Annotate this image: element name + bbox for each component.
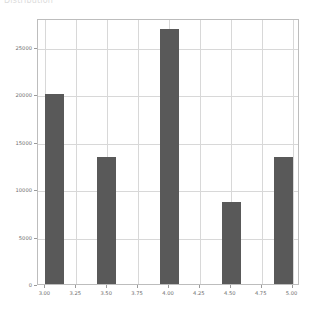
x-axis-tick-mark <box>106 285 107 288</box>
x-axis-tick-mark <box>199 285 200 288</box>
x-axis-tick-label: 3.50 <box>93 290 119 296</box>
plot-area <box>37 19 299 285</box>
gridline-vertical <box>262 20 263 284</box>
y-axis-tick-label: 5000 <box>2 235 32 241</box>
y-axis-tick-label: 15000 <box>2 140 32 146</box>
y-axis-tick-label: 10000 <box>2 187 32 193</box>
x-axis-tick-label: 4.75 <box>248 290 274 296</box>
chart-figure: Distribution 0500010000150002000025000 3… <box>0 0 310 309</box>
bar <box>97 157 116 284</box>
y-axis-tick-label: 0 <box>2 282 32 288</box>
x-axis-tick-label: 3.00 <box>31 290 57 296</box>
gridline-vertical <box>293 20 294 284</box>
x-axis-tick-mark <box>292 285 293 288</box>
figure-caption: Distribution <box>4 0 124 8</box>
gridline-vertical <box>76 20 77 284</box>
x-axis-tick-label: 4.25 <box>186 290 212 296</box>
x-axis-tick-label: 4.00 <box>155 290 181 296</box>
x-axis-tick-mark <box>168 285 169 288</box>
x-axis-tick-label: 3.25 <box>62 290 88 296</box>
gridline-vertical <box>200 20 201 284</box>
y-axis-tick-label: 25000 <box>2 45 32 51</box>
x-axis-tick-label: 5.00 <box>279 290 305 296</box>
x-axis-tick-label: 3.75 <box>124 290 150 296</box>
bar <box>160 29 179 284</box>
y-axis-tick-mark <box>34 285 37 286</box>
x-axis-tick-mark <box>230 285 231 288</box>
bar <box>45 94 64 284</box>
x-axis-tick-label: 4.50 <box>217 290 243 296</box>
x-axis-tick-mark <box>261 285 262 288</box>
bar <box>274 157 293 284</box>
y-axis-tick-label: 20000 <box>2 92 32 98</box>
x-axis-tick-mark <box>44 285 45 288</box>
bar <box>222 202 241 284</box>
x-axis-tick-mark <box>75 285 76 288</box>
x-axis-tick-mark <box>137 285 138 288</box>
gridline-vertical <box>138 20 139 284</box>
